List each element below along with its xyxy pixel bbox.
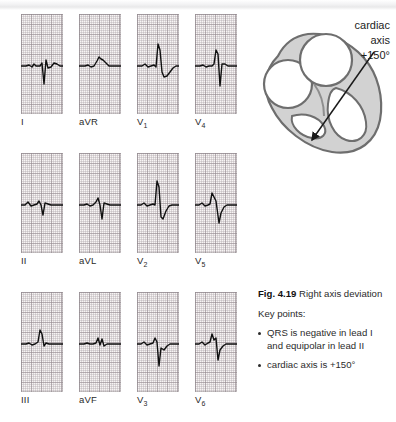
ecg-lead-label: III [21, 394, 30, 407]
ecg-panel-V5[interactable]: V5 [195, 153, 237, 253]
ecg-strip-paper [79, 14, 121, 114]
ecg-panel-II[interactable]: II [21, 153, 63, 253]
ecg-panel-aVF[interactable]: aVF [79, 292, 121, 392]
key-point-item: QRS is negative in lead I and equipolar … [258, 327, 390, 352]
ecg-strip-paper [79, 292, 121, 392]
ecg-strip-paper [137, 153, 179, 253]
ecg-strip-paper [137, 14, 179, 114]
ecg-lead-label: V1 [137, 116, 148, 129]
ecg-panel-V2[interactable]: V2 [137, 153, 179, 253]
ecg-strip-paper [137, 292, 179, 392]
figure-number: Fig. 4.19 [258, 288, 296, 299]
ecg-panel-V4[interactable]: V4 [195, 14, 237, 114]
ecg-row-2: II aVL V2 V5 [0, 153, 232, 283]
ecg-strip-paper [195, 14, 237, 114]
ecg-trace [137, 44, 179, 77]
ecg-trace [21, 201, 63, 215]
ecg-strip-paper [21, 292, 63, 392]
ecg-trace [79, 57, 121, 67]
ecg-lead-label: V5 [195, 255, 206, 268]
ecg-lead-label: V3 [137, 394, 148, 407]
figure-title: Right axis deviation [299, 288, 382, 299]
cardiac-axis-line2: axis [280, 33, 390, 48]
ecg-row-1: I aVR V1 V4 [0, 14, 232, 144]
ecg-trace [195, 50, 237, 86]
ecg-lead-label: aVF [79, 394, 97, 407]
ecg-panel-aVR[interactable]: aVR [79, 14, 121, 114]
ecg-panel-V1[interactable]: V1 [137, 14, 179, 114]
ecg-trace [195, 334, 237, 360]
figure-title-line: Fig. 4.19 Right axis deviation [258, 288, 390, 301]
ecg-panel-V6[interactable]: V6 [195, 292, 237, 392]
cardiac-axis-value: +150° [280, 48, 390, 63]
ecg-strip-paper [21, 14, 63, 114]
cardiac-axis-label: cardiac axis +150° [280, 18, 390, 63]
cardiac-axis-line1: cardiac [280, 18, 390, 33]
ecg-lead-label: II [21, 255, 27, 268]
ecg-trace [21, 60, 63, 84]
ecg-trace [137, 181, 179, 219]
ecg-trace [21, 330, 63, 346]
ecg-lead-label: aVR [79, 116, 98, 129]
ecg-lead-label: V4 [195, 116, 206, 129]
ecg-panel-I[interactable]: I [21, 14, 63, 114]
heart-diagram: cardiac axis +150° [240, 12, 396, 164]
ecg-trace [79, 338, 121, 346]
key-points-list: QRS is negative in lead I and equipolar … [258, 327, 390, 372]
ecg-trace [137, 338, 179, 366]
ecg-row-3: III aVF V3 V6 [0, 292, 232, 422]
ecg-panel-V3[interactable]: V3 [137, 292, 179, 392]
ecg-trace [79, 198, 121, 219]
ecg-lead-label: V6 [195, 394, 206, 407]
figure-caption: Fig. 4.19 Right axis deviation Key point… [258, 288, 390, 379]
ecg-lead-label: V2 [137, 255, 148, 268]
key-points-label: Key points: [258, 308, 390, 321]
page-top-band [0, 0, 396, 10]
ecg-strip-paper [195, 153, 237, 253]
ecg-lead-label: I [21, 116, 24, 129]
key-point-item: cardiac axis is +150° [258, 359, 390, 372]
ecg-trace [195, 193, 237, 223]
ecg-lead-label: aVL [79, 255, 97, 268]
ecg-panel-aVL[interactable]: aVL [79, 153, 121, 253]
ecg-strip-paper [79, 153, 121, 253]
ecg-strip-paper [21, 153, 63, 253]
ecg-strip-paper [195, 292, 237, 392]
ecg-panel-III[interactable]: III [21, 292, 63, 392]
ecg-panel-grid: I aVR V1 V4 II [0, 14, 232, 422]
